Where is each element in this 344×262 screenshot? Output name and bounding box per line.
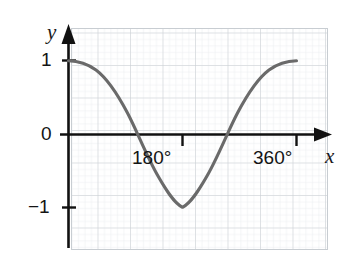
x-axis-label: x: [325, 146, 334, 167]
x-tick-label-180: 180°: [132, 148, 171, 167]
y-tick-label-0: 0: [41, 124, 52, 143]
cosine-graph-figure: y x 1 0 −1 180° 360°: [0, 0, 344, 262]
x-tick-label-360: 360°: [253, 148, 292, 167]
y-tick-label-minus-1: −1: [28, 197, 50, 216]
y-tick-label-1: 1: [41, 50, 52, 69]
y-axis-label: y: [47, 22, 56, 43]
